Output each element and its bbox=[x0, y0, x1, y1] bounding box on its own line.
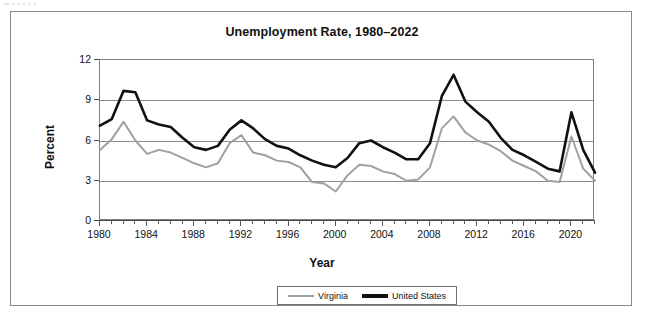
x-tick-label: 2004 bbox=[370, 228, 393, 240]
x-tick-major bbox=[335, 220, 336, 226]
x-tick-minor bbox=[559, 220, 560, 224]
y-tick-label: 9 bbox=[57, 93, 91, 105]
x-tick-minor bbox=[441, 220, 442, 224]
series-lines bbox=[100, 60, 595, 221]
x-tick-major bbox=[429, 220, 430, 226]
x-tick-label: 2020 bbox=[559, 228, 582, 240]
x-tick-minor bbox=[134, 220, 135, 224]
chart-title: Unemployment Rate, 1980–2022 bbox=[11, 25, 633, 39]
x-tick-minor bbox=[370, 220, 371, 224]
y-tick-label: 6 bbox=[57, 134, 91, 146]
x-tick-label: 2016 bbox=[512, 228, 535, 240]
chart-frame: Unemployment Rate, 1980–2022 Percent 036… bbox=[10, 11, 632, 306]
x-tick-minor bbox=[229, 220, 230, 224]
x-tick-label: 1984 bbox=[134, 228, 157, 240]
x-tick-label: 2008 bbox=[417, 228, 440, 240]
x-tick-minor bbox=[488, 220, 489, 224]
x-tick-major bbox=[476, 220, 477, 226]
x-tick-minor bbox=[217, 220, 218, 224]
x-tick-minor bbox=[347, 220, 348, 224]
x-tick-minor bbox=[182, 220, 183, 224]
legend-swatch-virginia-icon bbox=[288, 295, 314, 297]
x-tick-minor bbox=[252, 220, 253, 224]
x-tick-minor bbox=[500, 220, 501, 224]
x-tick-label: 2012 bbox=[464, 228, 487, 240]
series-line-united-states bbox=[100, 75, 595, 173]
x-tick-label: 1988 bbox=[182, 228, 205, 240]
x-tick-minor bbox=[299, 220, 300, 224]
x-axis-label: Year bbox=[11, 256, 633, 270]
x-tick-label: 1992 bbox=[229, 228, 252, 240]
chart-page: eg. 2. 0. 2. 2. 2. Unemployment Rate, 19… bbox=[0, 0, 646, 317]
x-tick-minor bbox=[264, 220, 265, 224]
x-tick-minor bbox=[547, 220, 548, 224]
x-tick-major bbox=[382, 220, 383, 226]
y-axis-label: Percent bbox=[43, 102, 57, 192]
legend-label-virginia: Virginia bbox=[318, 291, 348, 301]
plot-area bbox=[99, 59, 594, 220]
x-tick-major bbox=[288, 220, 289, 226]
legend-item-virginia: Virginia bbox=[288, 291, 348, 301]
y-tick-label: 12 bbox=[57, 53, 91, 65]
x-tick-major bbox=[146, 220, 147, 226]
x-tick-major bbox=[193, 220, 194, 226]
x-tick-minor bbox=[453, 220, 454, 224]
x-tick-minor bbox=[323, 220, 324, 224]
x-tick-minor bbox=[311, 220, 312, 224]
x-tick-label: 1980 bbox=[87, 228, 110, 240]
x-tick-minor bbox=[394, 220, 395, 224]
x-tick-label: 1996 bbox=[276, 228, 299, 240]
x-tick-minor bbox=[405, 220, 406, 224]
y-tick-label: 0 bbox=[57, 214, 91, 226]
legend-item-united-states: United States bbox=[362, 291, 446, 301]
legend-swatch-united-states-icon bbox=[362, 294, 388, 298]
x-tick-major bbox=[570, 220, 571, 226]
x-tick-minor bbox=[358, 220, 359, 224]
x-tick-minor bbox=[464, 220, 465, 224]
x-tick-major bbox=[523, 220, 524, 226]
x-tick-label: 2000 bbox=[323, 228, 346, 240]
x-tick-minor bbox=[276, 220, 277, 224]
chart-legend: Virginia United States bbox=[277, 286, 457, 305]
x-tick-minor bbox=[582, 220, 583, 224]
y-tick-label: 3 bbox=[57, 174, 91, 186]
x-tick-major bbox=[240, 220, 241, 226]
x-tick-minor bbox=[594, 220, 595, 224]
x-tick-minor bbox=[205, 220, 206, 224]
x-tick-minor bbox=[170, 220, 171, 224]
legend-label-united-states: United States bbox=[392, 291, 446, 301]
x-tick-minor bbox=[123, 220, 124, 224]
x-tick-major bbox=[99, 220, 100, 226]
x-tick-minor bbox=[535, 220, 536, 224]
scan-artifact-text: eg. 2. 0. 2. 2. 2. bbox=[4, 1, 37, 6]
x-tick-minor bbox=[111, 220, 112, 224]
x-tick-minor bbox=[417, 220, 418, 224]
x-tick-minor bbox=[512, 220, 513, 224]
x-tick-minor bbox=[158, 220, 159, 224]
